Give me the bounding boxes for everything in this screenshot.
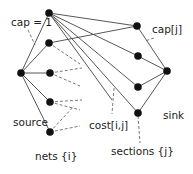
nets-label: nets {i} [35,151,77,162]
cost-label: cost[i,j] [89,120,128,131]
sink-label: sink [163,110,184,121]
net-node [45,39,53,47]
cap-j-label: cap[j] [152,24,182,35]
section-node [134,83,142,91]
source-label: source [13,117,48,128]
net-node [46,98,54,106]
net-node [46,128,54,136]
edges [21,13,167,132]
net-node [46,69,54,77]
source-node [17,69,25,77]
section-node [133,22,141,30]
section-node [134,109,142,117]
sink-node [163,67,171,75]
cap-one-label: cap = 1 [11,17,52,28]
sections-label: sections {j} [111,146,174,157]
section-node [134,52,142,60]
